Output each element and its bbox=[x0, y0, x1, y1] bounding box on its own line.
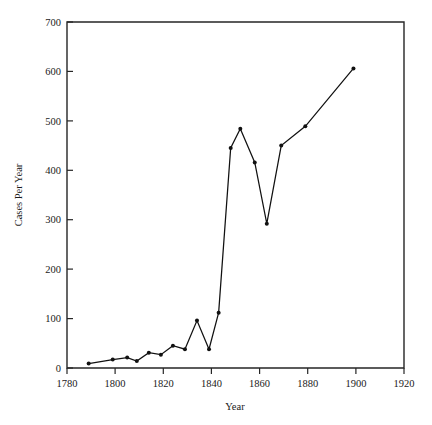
x-tick-label-1920: 1920 bbox=[394, 378, 415, 389]
data-point bbox=[279, 144, 283, 148]
data-point bbox=[217, 311, 221, 315]
y-tick-label-0: 0 bbox=[56, 363, 61, 374]
plot-frame bbox=[67, 22, 404, 368]
data-point bbox=[207, 347, 211, 351]
data-line-cases-per-year bbox=[89, 68, 354, 363]
y-tick-label-200: 200 bbox=[45, 264, 61, 275]
x-tick-label-1840: 1840 bbox=[201, 378, 222, 389]
x-axis-ticks bbox=[67, 368, 404, 374]
chart-figure: 0 100 200 300 400 500 600 700 1780 1800 … bbox=[0, 0, 432, 425]
data-point bbox=[351, 66, 355, 70]
x-tick-label-1820: 1820 bbox=[153, 378, 174, 389]
data-point bbox=[125, 356, 129, 360]
data-point bbox=[147, 351, 151, 355]
y-tick-label-600: 600 bbox=[45, 66, 61, 77]
line-chart-plot: 0 100 200 300 400 500 600 700 1780 1800 … bbox=[0, 0, 432, 425]
y-tick-label-400: 400 bbox=[45, 165, 61, 176]
y-axis-tick-labels: 0 100 200 300 400 500 600 700 bbox=[45, 17, 61, 374]
data-point bbox=[87, 362, 91, 366]
data-point bbox=[135, 359, 139, 363]
data-point bbox=[171, 344, 175, 348]
y-tick-label-700: 700 bbox=[45, 17, 61, 28]
data-point bbox=[265, 222, 269, 226]
x-tick-label-1900: 1900 bbox=[345, 378, 366, 389]
data-point bbox=[238, 127, 242, 131]
data-point bbox=[183, 347, 187, 351]
x-tick-label-1780: 1780 bbox=[57, 378, 78, 389]
y-axis-title: Cases Per Year bbox=[13, 163, 24, 226]
data-point bbox=[253, 160, 257, 164]
data-point bbox=[229, 146, 233, 150]
x-axis-title: Year bbox=[225, 401, 245, 412]
y-axis-ticks bbox=[67, 22, 73, 368]
plot-border bbox=[67, 22, 404, 368]
data-point bbox=[195, 319, 199, 323]
y-tick-label-500: 500 bbox=[45, 116, 61, 127]
x-tick-label-1860: 1860 bbox=[249, 378, 270, 389]
data-series-group bbox=[87, 66, 356, 365]
x-tick-label-1880: 1880 bbox=[297, 378, 318, 389]
y-tick-label-300: 300 bbox=[45, 214, 61, 225]
data-point bbox=[111, 358, 115, 362]
x-axis-tick-labels: 1780 1800 1820 1840 1860 1880 1900 1920 bbox=[57, 378, 415, 389]
y-tick-label-100: 100 bbox=[45, 313, 61, 324]
data-markers-group bbox=[87, 66, 356, 365]
x-tick-label-1800: 1800 bbox=[105, 378, 126, 389]
data-point bbox=[159, 353, 163, 357]
data-point bbox=[303, 124, 307, 128]
